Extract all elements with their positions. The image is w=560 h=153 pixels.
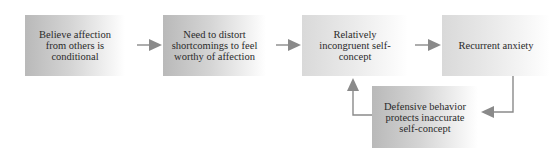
arrow-right-icon: [276, 39, 301, 51]
arrow-right-icon: [137, 39, 162, 51]
arrow-right-icon: [415, 39, 441, 51]
arrow-elbow-left-icon: [481, 76, 513, 118]
arrow-elbow-up-icon: [347, 78, 372, 115]
arrows-layer: [0, 0, 560, 153]
